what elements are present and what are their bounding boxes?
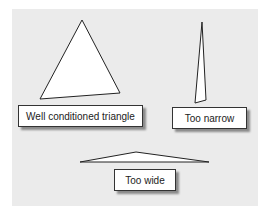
label-text: Too wide xyxy=(125,175,164,186)
well-conditioned-triangle xyxy=(40,20,120,99)
label-too-wide: Too wide xyxy=(114,169,176,191)
label-text: Well conditioned triangle xyxy=(26,111,135,122)
too-wide-triangle xyxy=(80,152,209,162)
label-too-narrow: Too narrow xyxy=(172,107,247,129)
label-well-conditioned: Well conditioned triangle xyxy=(18,105,143,127)
too-narrow-triangle xyxy=(195,22,206,103)
label-text: Too narrow xyxy=(185,113,234,124)
